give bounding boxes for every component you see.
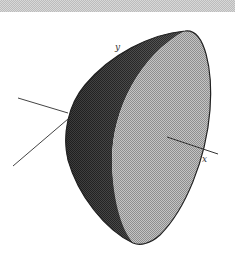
- axis-line-upper-left: [18, 98, 68, 113]
- paraboloid-diagram: y x: [0, 0, 235, 257]
- x-axis-label: x: [202, 154, 207, 164]
- y-axis-label: y: [114, 42, 121, 52]
- axis-line-lower-left: [13, 119, 68, 166]
